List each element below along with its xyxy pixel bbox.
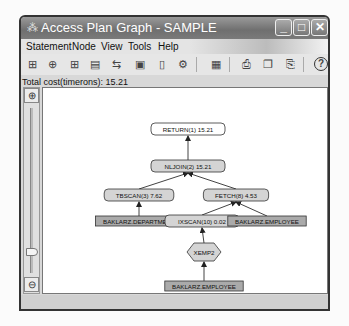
plan-node-label: XEMP2 (194, 249, 216, 256)
plan-node-label: RETURN(1) 15.21 (163, 126, 214, 133)
zoom-out-button[interactable]: ⊖ (24, 277, 39, 292)
window-title: Access Plan Graph - SAMPLE (41, 20, 217, 35)
document-icon[interactable]: ▯ (155, 57, 169, 71)
app-icon: ⁂ (27, 21, 39, 33)
toolbar-separator (303, 57, 304, 72)
plan-node-employee2[interactable]: BAKLARZ.EMPLOYEE (165, 281, 243, 291)
menu-help[interactable]: Help (158, 41, 179, 52)
window-icon[interactable]: ▦ (209, 57, 223, 71)
statistics-icon[interactable]: ▤ (88, 57, 102, 71)
close-button[interactable]: ✕ (311, 19, 328, 36)
minimize-button[interactable]: _ (275, 19, 292, 36)
plan-node-return[interactable]: RETURN(1) 15.21 (151, 123, 225, 135)
menu-node[interactable]: Node (72, 41, 96, 52)
menu-view[interactable]: View (101, 41, 123, 52)
plan-node-label: BAKLARZ.EMPLOYEE (235, 218, 299, 225)
maximize-button[interactable]: □ (293, 19, 310, 36)
access-plan-graph: RETURN(1) 15.21NLJOIN(2) 15.21TBSCAN(3) … (43, 88, 327, 293)
menu-bar: Statement Node View Tools Help (21, 39, 328, 54)
zoom-panel: ⊕ ⊖ (23, 87, 40, 294)
plan-node-employee1[interactable]: BAKLARZ.EMPLOYEE (228, 216, 306, 226)
zoom-slider-thumb[interactable] (26, 248, 38, 256)
toolbar-separator (196, 57, 197, 72)
plan-node-label: IXSCAN(10) 0.02 (178, 218, 226, 225)
settings-tool-icon[interactable]: ⚙ (176, 57, 190, 71)
plan-node-label: BAKLARZ.EMPLOYEE (172, 283, 236, 290)
node-details-icon[interactable]: ⊕ (45, 57, 59, 71)
graph-edge (236, 202, 267, 216)
plan-node-nljoin[interactable]: NLJOIN(2) 15.21 (151, 160, 225, 172)
access-plan-graph-window: ⁂ Access Plan Graph - SAMPLE _ □ ✕ State… (19, 15, 330, 311)
plan-node-label: FETCH(8) 4.53 (215, 192, 258, 199)
plan-node-tbscan[interactable]: TBSCAN(3) 7.62 (104, 189, 174, 201)
toolbar: ⊞ ⊕ ⊞ ▤ ⇆ ▣ ▯ ⚙ ▦ ⎙ ❐ ⎘ ? (21, 54, 328, 75)
toolbar-separator (229, 57, 230, 72)
total-cost-label: Total cost(timerons): 15.21 (22, 77, 128, 87)
plan-node-fetch[interactable]: FETCH(8) 4.53 (203, 189, 268, 201)
node-tree-icon[interactable]: ⊞ (67, 57, 81, 71)
graph-edge (139, 173, 188, 189)
statement-tree-icon[interactable]: ⊞ (25, 57, 39, 71)
title-bar[interactable]: ⁂ Access Plan Graph - SAMPLE _ □ ✕ (21, 17, 328, 39)
graph-edge (188, 173, 236, 189)
graph-edge (202, 202, 236, 215)
graph-edge (202, 228, 204, 243)
graph-canvas[interactable]: RETURN(1) 15.21NLJOIN(2) 15.21TBSCAN(3) … (42, 87, 328, 294)
plan-node-label: NLJOIN(2) 15.21 (165, 163, 212, 170)
monitor-icon[interactable]: ▣ (133, 57, 147, 71)
plan-node-label: TBSCAN(3) 7.62 (116, 192, 163, 199)
status-bar (21, 295, 328, 309)
menu-tools[interactable]: Tools (128, 41, 151, 52)
help-icon[interactable]: ? (314, 57, 328, 71)
graph-layout-icon[interactable]: ⇆ (109, 57, 123, 71)
plan-node-label: BAKLARZ.DEPARTMENT (103, 218, 175, 225)
copy-icon[interactable]: ❐ (261, 57, 275, 71)
zoom-in-button[interactable]: ⊕ (24, 88, 39, 103)
plan-node-xemp2[interactable]: XEMP2 (187, 243, 221, 261)
paste-icon[interactable]: ⎘ (283, 57, 297, 71)
print-icon[interactable]: ⎙ (239, 57, 253, 71)
menu-statement[interactable]: Statement (26, 41, 72, 52)
